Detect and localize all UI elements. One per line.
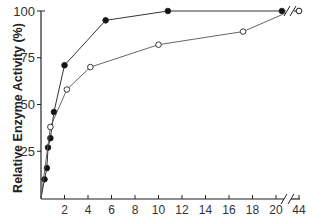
series-line-open (41, 15, 282, 198)
open-circle-marker (64, 87, 70, 93)
x-tick-label: 18 (246, 203, 260, 217)
x-tick-label: 10 (152, 203, 166, 217)
x-tick-label: 8 (132, 203, 139, 217)
filled-circle-marker (42, 177, 48, 183)
x-tick-label: 20 (269, 203, 283, 217)
plot-area: 255075100246810121416182044 (0, 0, 312, 220)
x-tick-label: 14 (199, 203, 213, 217)
series-line-filled (41, 11, 282, 198)
open-circle-marker (88, 64, 94, 70)
y-axis-label: Relative Enzyme Activity (%) (11, 23, 31, 193)
filled-circle-marker (62, 62, 68, 68)
open-circle-marker (296, 8, 302, 14)
open-circle-marker (240, 29, 246, 35)
filled-circle-marker (103, 18, 109, 24)
filled-circle-marker (279, 8, 285, 14)
x-tick-label: 16 (222, 203, 236, 217)
open-circle-marker (48, 124, 54, 130)
x-tick-label: 2 (61, 203, 68, 217)
open-circle-marker (156, 42, 162, 48)
y-tick-label: 100 (13, 4, 35, 19)
x-tick-label: 4 (85, 203, 92, 217)
x-tick-label: 44 (292, 203, 306, 217)
filled-circle-marker (165, 8, 171, 14)
x-tick-label: 6 (108, 203, 115, 217)
enzyme-activity-chart: Relative Enzyme Activity (%) 25507510024… (0, 0, 312, 220)
x-tick-label: 12 (175, 203, 189, 217)
